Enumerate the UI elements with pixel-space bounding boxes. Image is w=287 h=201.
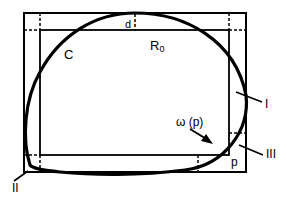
label-offset-d: d <box>125 18 131 30</box>
diagram-canvas <box>0 0 287 201</box>
label-r0-sub: 0 <box>159 44 164 54</box>
omega-arrow <box>190 129 213 144</box>
curve-c <box>25 13 246 174</box>
label-region-i: I <box>265 98 268 110</box>
label-point-p: p <box>231 156 238 168</box>
label-region-ii: II <box>12 182 19 194</box>
label-omega-p: ω (p) <box>176 116 203 128</box>
label-curve-c: C <box>64 49 73 61</box>
label-region-iii: III <box>266 148 276 160</box>
label-r0: R0 <box>150 40 164 55</box>
leader-lines <box>14 92 263 181</box>
outer-rectangle <box>24 13 246 172</box>
dashed-offset-lines <box>24 13 246 172</box>
label-r0-base: R <box>150 38 159 53</box>
